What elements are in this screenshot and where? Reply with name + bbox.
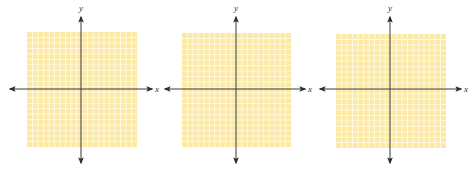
x-axis-label: x	[307, 84, 312, 94]
x-axis-label: x	[154, 84, 159, 94]
grid-paper	[336, 34, 446, 148]
coordinate-planes-figure: x y x y x y	[0, 0, 476, 172]
y-axis-label: y	[387, 3, 392, 13]
coordinate-plane-1: x y	[10, 3, 159, 163]
coordinate-plane-2: x y	[165, 3, 312, 163]
x-axis-label: x	[463, 84, 468, 94]
coordinate-plane-3: x y	[320, 3, 468, 163]
y-axis-label: y	[233, 3, 238, 13]
y-axis-label: y	[78, 3, 83, 13]
